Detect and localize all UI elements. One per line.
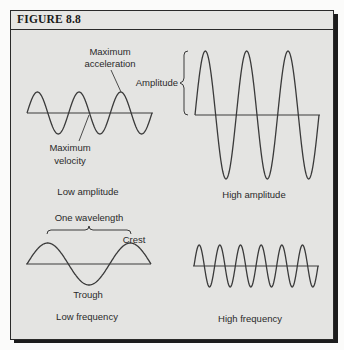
amplitude-bracket	[180, 51, 188, 115]
max-velocity-pointer	[79, 115, 89, 141]
high-frequency-wave	[193, 245, 319, 287]
high-frequency-caption: High frequency	[200, 313, 300, 324]
crest-label: Crest	[116, 234, 152, 245]
page: FIGURE 8.8 Maximum acceleratio	[0, 0, 344, 350]
wavelength-bracket	[47, 226, 131, 234]
max-acceleration-pointer	[111, 70, 121, 92]
low-frequency-caption: Low frequency	[37, 311, 137, 322]
wave-diagrams	[0, 0, 344, 350]
max-velocity-label-line2: velocity	[40, 155, 100, 166]
max-velocity-label-line1: Maximum	[40, 142, 100, 153]
trough-label: Trough	[68, 289, 108, 300]
max-acceleration-label-line2: acceleration	[75, 58, 145, 69]
low-amplitude-caption: Low amplitude	[38, 186, 138, 197]
high-amplitude-caption: High amplitude	[204, 189, 304, 200]
amplitude-label: Amplitude	[128, 77, 178, 88]
max-acceleration-label-line1: Maximum	[80, 46, 140, 57]
wavelength-label: One wavelength	[44, 212, 134, 223]
high-amplitude-wave	[180, 51, 320, 179]
